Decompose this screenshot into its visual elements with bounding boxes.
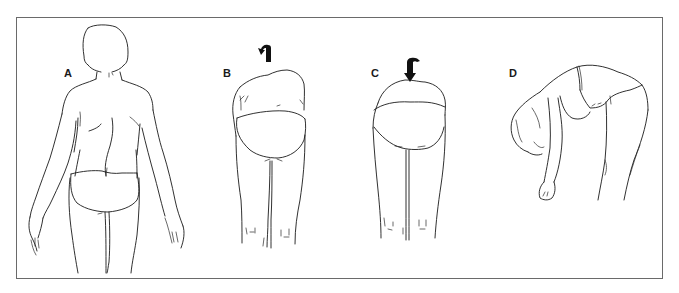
illustration-canvas [0, 0, 679, 293]
downward-arrow-icon [404, 58, 420, 82]
figure-d-lateral-bend [511, 65, 648, 200]
figure-c-forward-bend [373, 58, 445, 240]
figure-a-standing-back [29, 25, 184, 273]
rotation-arrow-icon [258, 45, 271, 62]
figure-b-forward-bend [233, 45, 306, 248]
